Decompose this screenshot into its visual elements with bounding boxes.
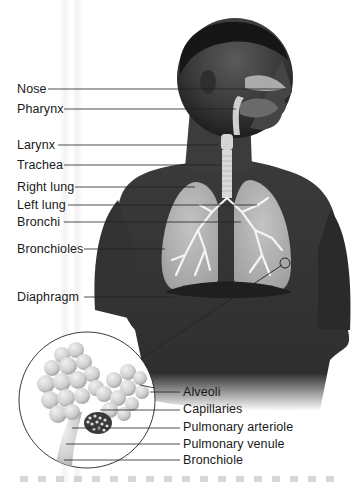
anatomy-illustration [0,0,363,482]
label-trachea: Trachea [17,158,63,172]
label-left-lung: Left lung [17,198,66,212]
airway [221,134,233,198]
label-alveoli: Alveoli [183,385,221,399]
label-right-lung: Right lung [17,180,74,194]
label-bronchioles: Bronchioles [17,242,83,256]
respiratory-diagram: Nose Pharynx Larynx Trachea Right lung L… [0,0,363,482]
label-capillaries: Capillaries [183,402,242,416]
capillary-network [84,412,112,434]
label-pulmonary-arteriole: Pulmonary arteriole [183,420,293,434]
label-pulmonary-venule: Pulmonary venule [183,437,285,451]
label-larynx: Larynx [17,138,55,152]
head [177,18,293,138]
cropped-caption-text [20,476,340,482]
label-bronchiole: Bronchiole [183,453,243,467]
label-pharynx: Pharynx [17,102,64,116]
label-bronchi: Bronchi [17,215,60,229]
label-nose: Nose [17,82,47,96]
label-diaphragm: Diaphragm [17,290,79,304]
